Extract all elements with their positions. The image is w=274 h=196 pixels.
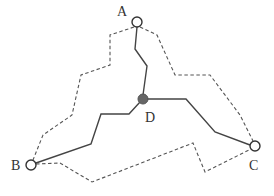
node-b-label: B (11, 158, 20, 173)
dashed-path-a-b (33, 27, 134, 160)
node-d-label: D (145, 110, 155, 125)
node-c-label: C (249, 158, 258, 173)
solid-path-a-d (135, 27, 147, 95)
network-diagram: ABCD (0, 0, 274, 196)
node-c-circle-icon (250, 141, 260, 151)
nodes (26, 17, 260, 170)
node-labels: ABCD (11, 4, 258, 173)
node-d-circle-icon (138, 94, 148, 104)
node-a-circle-icon (132, 17, 142, 27)
solid-path-d-c (147, 99, 250, 145)
node-b-circle-icon (26, 160, 36, 170)
solid-path-d-b (36, 102, 140, 163)
node-a-label: A (117, 4, 128, 19)
dashed-path-a-c (140, 27, 253, 141)
dashed-path-b-c (36, 143, 251, 182)
